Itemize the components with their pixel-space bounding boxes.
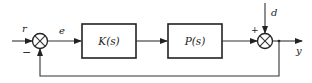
controller-label: K(s)	[97, 35, 119, 47]
feedback-path	[40, 41, 279, 76]
output-label: y	[295, 45, 302, 56]
disturbance-label: d	[271, 7, 277, 18]
minus-sign: −	[22, 46, 31, 59]
reference-input-signal: r	[12, 23, 32, 41]
feedback-arrow	[40, 41, 279, 76]
plus-sign: +	[251, 25, 259, 35]
output-summing-junction: +	[251, 25, 273, 49]
controller-block: K(s)	[82, 24, 136, 58]
disturbance-input-signal: d	[265, 3, 277, 33]
input-summing-junction: −	[22, 34, 48, 60]
error-label: e	[59, 25, 65, 36]
block-diagram: r − e K(s) P(s) d	[0, 0, 312, 83]
plant-block: P(s)	[168, 24, 222, 58]
error-signal: e	[48, 25, 82, 41]
plant-label: P(s)	[184, 35, 206, 47]
reference-label: r	[22, 23, 28, 34]
output-signal: y	[273, 40, 303, 56]
